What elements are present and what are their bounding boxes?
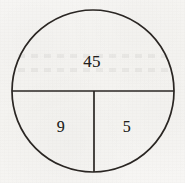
region-label-bottom-right: 5 [123, 118, 131, 136]
figure-canvas: 45 9 5 [0, 0, 185, 183]
circle-partition-svg [0, 0, 185, 183]
region-label-top: 45 [83, 52, 101, 72]
region-label-bottom-left: 9 [57, 118, 65, 136]
